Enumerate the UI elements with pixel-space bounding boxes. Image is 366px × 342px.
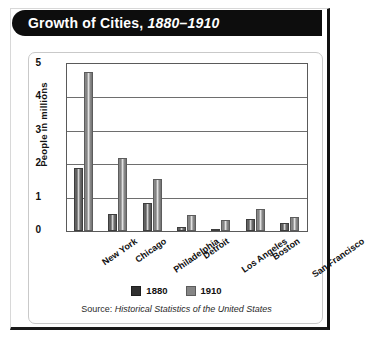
bar-1910 [84,72,93,231]
y-axis-tick-label: 3 [11,124,41,135]
x-axis-tick-label: New York [100,236,139,267]
bar-1880 [143,203,152,231]
y-axis-tick-label: 1 [11,191,41,202]
x-axis-tick-label: Chicago [134,236,169,265]
bar-group [106,64,130,231]
chart-legend: 18801910 [29,285,324,296]
bar-1910 [187,215,196,231]
bar-1880 [246,219,255,231]
bar-1880 [211,229,220,231]
bar-group [175,64,199,231]
chart-figure: Growth of Cities, 1880–1910 People in mi… [10,8,330,330]
title-banner: Growth of Cities, 1880–1910 [12,10,322,36]
bar-chart: People in millions 012345 New YorkChicag… [29,53,324,325]
title-era: 1880–1910 [148,15,220,31]
bar-1910 [256,209,265,231]
legend-swatch-icon [186,286,196,296]
bar-group [209,64,233,231]
legend-label: 1880 [146,285,167,296]
plot-area [66,63,308,232]
y-axis-tick-label: 5 [11,57,41,68]
legend-item: 1910 [186,285,222,296]
bar-1880 [280,223,289,231]
bar-group [278,64,302,231]
bar-1880 [74,168,83,231]
legend-swatch-icon [131,286,141,296]
y-axis-tick-label: 0 [11,224,41,235]
y-axis-tick-label: 4 [11,90,41,101]
title-main: Growth of Cities, [28,15,143,31]
bar-1910 [153,179,162,231]
bar-1910 [221,220,230,231]
bar-1910 [118,158,127,231]
x-axis-tick-label: San Francisco [310,236,366,279]
source-note: Source: Historical Statistics of the Uni… [29,304,324,314]
page-title: Growth of Cities, 1880–1910 [28,15,219,31]
bar-group [72,64,96,231]
bar-1910 [290,217,299,231]
bar-group [141,64,165,231]
chart-card: People in millions 012345 New YorkChicag… [28,52,323,324]
legend-item: 1880 [131,285,167,296]
source-title: Historical Statistics of the United Stat… [115,304,272,314]
bar-group [244,64,268,231]
legend-label: 1910 [201,285,222,296]
bar-1880 [108,214,117,231]
bar-1880 [177,227,186,231]
y-axis-tick-label: 2 [11,157,41,168]
source-prefix: Source: [81,304,115,314]
bar-series-container [67,64,307,231]
